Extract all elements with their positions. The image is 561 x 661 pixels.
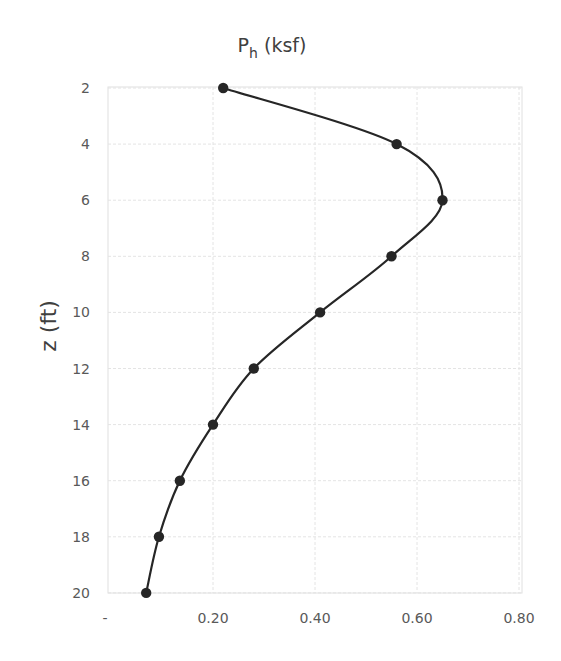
data-markers [141, 83, 448, 598]
data-point [315, 307, 325, 317]
data-point [249, 363, 259, 373]
data-point [218, 83, 228, 93]
data-point [386, 251, 396, 261]
y-tick-label: 6 [81, 192, 90, 208]
y-tick-label: 16 [72, 473, 90, 489]
y-tick-label: 12 [72, 361, 90, 377]
data-point [391, 139, 401, 149]
chart: Ph (ksf) 2468101214161820 -0.200.400.600… [0, 0, 561, 661]
x-tick-label: - [102, 610, 107, 626]
y-tick-label: 8 [81, 248, 90, 264]
y-axis-ticks: 2468101214161820 [72, 80, 90, 601]
x-tick-label: 0.40 [299, 610, 330, 626]
data-point [141, 588, 151, 598]
y-tick-label: 18 [72, 529, 90, 545]
chart-title: Ph (ksf) [238, 34, 307, 61]
x-tick-label: 0.60 [401, 610, 432, 626]
data-point [154, 532, 164, 542]
data-point [437, 195, 447, 205]
y-axis-label: z (ft) [36, 300, 61, 352]
data-point [175, 476, 185, 486]
y-tick-label: 14 [72, 417, 90, 433]
x-tick-label: 0.80 [503, 610, 534, 626]
data-line [146, 88, 442, 593]
x-tick-label: 0.20 [197, 610, 228, 626]
y-tick-label: 2 [81, 80, 90, 96]
y-tick-label: 20 [72, 585, 90, 601]
data-point [208, 419, 218, 429]
gridlines [108, 87, 522, 593]
y-tick-label: 4 [81, 136, 90, 152]
y-tick-label: 10 [72, 304, 90, 320]
x-axis-ticks: -0.200.400.600.80 [102, 610, 534, 626]
